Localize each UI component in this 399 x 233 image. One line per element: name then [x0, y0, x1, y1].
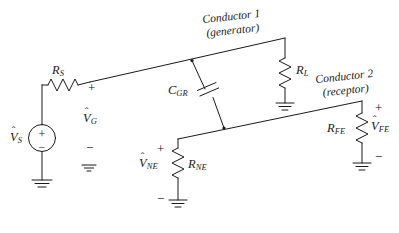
source-resistor-base: R	[52, 63, 60, 77]
far-end-resistor-symbol	[356, 113, 368, 163]
far-end-plus-sign: +	[375, 101, 382, 114]
far-end-voltage-hat: ˆ	[373, 114, 377, 125]
ground-far-end-symbol	[353, 163, 371, 170]
source-resistor-label: RS	[52, 64, 64, 78]
source-voltage-label: ˆVS	[10, 131, 22, 145]
near-end-plus-sign: +	[157, 142, 164, 155]
coupling-capacitor-label: CGR	[168, 84, 188, 98]
wire-source-to-rs	[42, 85, 48, 125]
coupling-capacitor-symbol	[192, 61, 224, 128]
ground-source-symbol	[32, 180, 52, 187]
source-resistor-symbol	[48, 79, 78, 91]
ground-generator-reference-symbol	[82, 165, 96, 171]
ground-load-symbol	[276, 103, 294, 110]
source-minus-sign: −	[39, 141, 46, 153]
load-resistor-symbol	[279, 58, 291, 103]
conductor1-line	[90, 38, 285, 82]
near-end-voltage-sub: NE	[147, 161, 158, 171]
far-end-minus-sign: −	[375, 150, 382, 163]
generator-plus-sign: +	[88, 81, 95, 94]
far-end-resistor-base: R	[327, 121, 335, 135]
ground-near-end-symbol	[169, 200, 187, 207]
source-voltage-hat: ˆ	[12, 125, 16, 136]
circuit-diagram: ˆVS + − RS ˆVG + − Conductor 1 (generato…	[0, 0, 399, 233]
source-resistor-sub: S	[60, 68, 64, 78]
near-end-resistor-label: RNE	[188, 158, 207, 172]
source-voltage-sub: S	[18, 135, 22, 145]
near-end-minus-sign: −	[157, 192, 164, 205]
near-end-resistor-base: R	[188, 157, 196, 171]
near-end-resistor-sub: NE	[196, 162, 207, 172]
generator-minus-sign: −	[86, 141, 93, 154]
far-end-resistor-sub: FE	[335, 126, 346, 136]
near-end-voltage-hat: ˆ	[141, 151, 145, 162]
generator-voltage-sub: G	[91, 116, 97, 126]
coupling-capacitor-sub: GR	[176, 88, 188, 98]
far-end-voltage-sub: FE	[379, 124, 390, 134]
far-end-resistor-label: RFE	[327, 122, 345, 136]
source-plus-sign: +	[39, 128, 46, 140]
near-end-voltage-label: ˆVNE	[139, 157, 158, 171]
generator-voltage-label: ˆVG	[83, 112, 97, 126]
generator-voltage-hat: ˆ	[85, 106, 89, 117]
near-end-resistor-symbol	[172, 148, 184, 200]
far-end-voltage-label: ˆVFE	[371, 120, 389, 134]
